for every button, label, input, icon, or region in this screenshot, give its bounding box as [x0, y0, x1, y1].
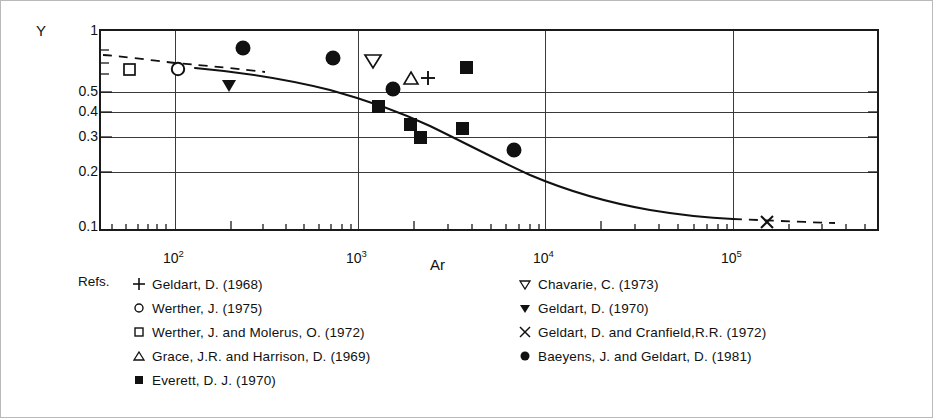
legend-item-geldart-1968: Geldart, D. (1968) — [126, 272, 370, 296]
cross-icon — [512, 325, 538, 339]
data-point-open-triangle-down — [365, 55, 381, 68]
plot-frame — [100, 30, 878, 230]
legend-item-everett-1970: Everett, D. J. (1970) — [126, 368, 370, 392]
filled-circle-icon — [512, 349, 538, 363]
legend-label: Geldart, D. (1970) — [538, 301, 649, 316]
open-triangle-down-icon — [512, 277, 538, 291]
legend-item-grace-harrison-1969: Grace, J.R. and Harrison, D. (1969) — [126, 344, 370, 368]
data-point-open-square — [124, 64, 135, 75]
data-point-open-circle — [172, 63, 184, 75]
legend-label: Geldart, D. and Cranfield,R.R. (1972) — [538, 325, 766, 340]
legend-column-left: Geldart, D. (1968) Werther, J. (1975) We… — [78, 272, 370, 392]
x-axis-minor-ticks — [112, 221, 865, 230]
legend-column-right: Chavarie, C. (1973) Geldart, D. (1970) G… — [512, 272, 766, 368]
vertical-gridlines — [175, 30, 733, 230]
legend-label: Everett, D. J. (1970) — [152, 373, 276, 388]
legend-item-werther-1975: Werther, J. (1975) — [126, 296, 370, 320]
legend-label: Chavarie, C. (1973) — [538, 277, 659, 292]
legend-label: Geldart, D. (1968) — [152, 277, 263, 292]
legend-item-geldart-1970: Geldart, D. (1970) — [512, 296, 766, 320]
legend-item-chavarie-1973: Chavarie, C. (1973) — [512, 272, 766, 296]
y-axis-minor-ticks — [100, 50, 112, 172]
legend-label: Baeyens, J. and Geldart, D. (1981) — [538, 349, 752, 364]
open-square-icon — [126, 325, 152, 339]
plus-icon — [126, 277, 152, 291]
legend-label: Werther, J. and Molerus, O. (1972) — [152, 325, 365, 340]
y-axis-minor-ticks-right — [868, 92, 878, 172]
data-point-cross — [761, 216, 773, 228]
data-point-filled-square — [372, 61, 473, 144]
legend-item-werther-molerus-1972: Werther, J. and Molerus, O. (1972) — [126, 320, 370, 344]
legend-item-baeyens-geldart-1981: Baeyens, J. and Geldart, D. (1981) — [512, 344, 766, 368]
data-point-filled-triangle-down — [222, 80, 236, 92]
data-point-open-triangle-up — [404, 72, 418, 84]
figure-container: Y 1 0.5 0.4 0.3 0.2 0.1 102 103 104 105 … — [0, 0, 934, 419]
filled-square-icon — [126, 373, 152, 387]
filled-triangle-down-icon — [512, 301, 538, 315]
open-circle-icon — [126, 301, 152, 315]
legend-item-geldart-cranfield-1972: Geldart, D. and Cranfield,R.R. (1972) — [512, 320, 766, 344]
data-point-plus — [421, 71, 435, 85]
fit-curve-dashed-right — [733, 219, 835, 223]
legend-label: Grace, J.R. and Harrison, D. (1969) — [152, 349, 370, 364]
horizontal-gridlines — [100, 92, 878, 172]
legend: Refs. Geldart, D. (1968) Werther, J. (19… — [0, 272, 934, 412]
fit-curve-solid — [195, 68, 733, 219]
open-triangle-up-icon — [126, 349, 152, 363]
legend-label: Werther, J. (1975) — [152, 301, 263, 316]
